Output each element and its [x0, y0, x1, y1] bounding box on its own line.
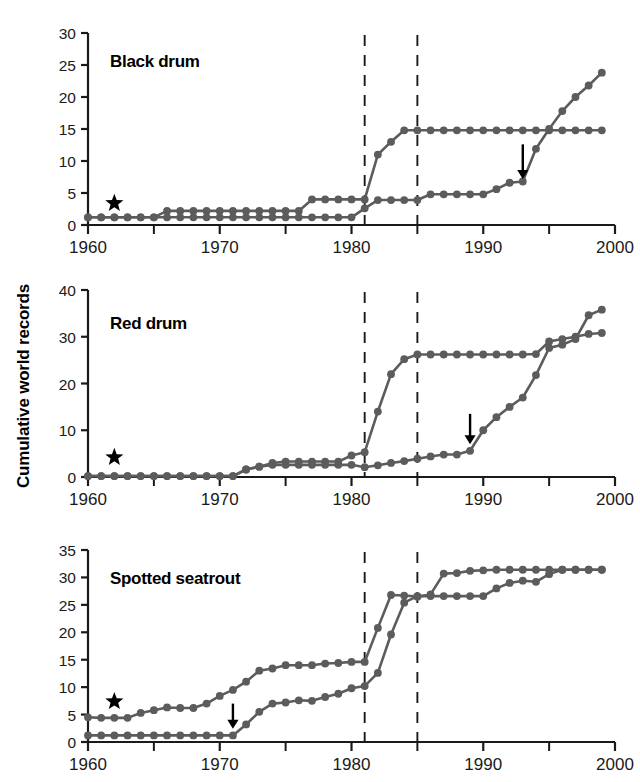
data-point-marker	[269, 665, 277, 673]
y-tick-label: 5	[67, 707, 76, 724]
data-point-marker	[400, 457, 408, 465]
data-point-marker	[348, 452, 356, 460]
y-ticks-group: 010203040	[59, 282, 88, 486]
data-point-marker	[387, 370, 395, 378]
data-point-marker	[493, 126, 501, 134]
data-point-marker	[506, 179, 514, 187]
y-tick-label: 30	[59, 569, 77, 586]
star-marker-icon	[105, 194, 123, 211]
data-point-marker	[427, 453, 435, 461]
series-upper	[84, 566, 606, 722]
data-point-marker	[387, 138, 395, 146]
data-point-marker	[176, 472, 184, 480]
data-point-marker	[308, 461, 316, 469]
data-point-marker	[308, 661, 316, 669]
y-tick-label: 35	[59, 542, 76, 559]
data-point-marker	[124, 472, 132, 480]
data-point-marker	[229, 686, 237, 694]
y-tick-label: 10	[59, 153, 77, 170]
data-point-marker	[598, 126, 606, 134]
data-point-marker	[110, 213, 118, 221]
data-point-marker	[84, 713, 92, 721]
data-point-marker	[321, 461, 329, 469]
data-point-marker	[453, 451, 461, 459]
data-point-marker	[493, 351, 501, 359]
data-point-marker	[440, 190, 448, 198]
data-point-marker	[137, 472, 145, 480]
data-point-marker	[440, 126, 448, 134]
data-point-marker	[163, 213, 171, 221]
data-point-marker	[110, 714, 118, 722]
star-marker-icon	[105, 448, 123, 465]
data-point-marker	[242, 466, 250, 474]
data-point-marker	[440, 570, 448, 578]
data-point-marker	[387, 459, 395, 467]
data-point-marker	[190, 704, 198, 712]
data-point-marker	[400, 592, 408, 600]
chart-svg-1: 01020304019601970198019902000	[0, 262, 640, 517]
data-point-marker	[137, 709, 145, 717]
data-point-marker	[493, 185, 501, 193]
data-point-marker	[466, 567, 474, 575]
data-point-marker	[572, 566, 580, 574]
panel-spotted-seatrout: 0510152025303519601970198019902000 Spott…	[0, 517, 640, 782]
data-point-marker	[400, 599, 408, 607]
data-point-marker	[413, 196, 421, 204]
x-tick-label: 2000	[596, 490, 634, 509]
panel-red-drum: 01020304019601970198019902000 Red drum	[0, 262, 640, 517]
data-point-marker	[163, 472, 171, 480]
data-point-marker	[150, 472, 158, 480]
data-point-marker	[545, 125, 553, 133]
data-point-marker	[493, 566, 501, 574]
data-point-marker	[440, 351, 448, 359]
data-point-marker	[282, 661, 290, 669]
data-point-marker	[598, 306, 606, 314]
data-point-marker	[506, 351, 514, 359]
data-point-marker	[479, 426, 487, 434]
data-point-marker	[242, 678, 250, 686]
data-point-marker	[545, 344, 553, 352]
data-point-marker	[334, 659, 342, 667]
data-point-marker	[295, 213, 303, 221]
data-point-marker	[466, 592, 474, 600]
data-point-marker	[532, 371, 540, 379]
series-line	[88, 570, 602, 718]
data-point-marker	[308, 196, 316, 204]
data-point-marker	[532, 145, 540, 153]
arrow-down-icon	[464, 414, 475, 444]
data-point-marker	[519, 566, 527, 574]
data-point-marker	[361, 204, 369, 212]
data-point-marker	[84, 472, 92, 480]
y-tick-label: 0	[67, 469, 76, 486]
data-point-marker	[453, 126, 461, 134]
series-line	[88, 73, 602, 218]
data-point-marker	[282, 699, 290, 707]
y-tick-label: 5	[67, 185, 76, 202]
data-point-marker	[598, 566, 606, 574]
data-point-marker	[374, 196, 382, 204]
data-point-marker	[137, 213, 145, 221]
data-point-marker	[176, 732, 184, 740]
data-point-marker	[150, 732, 158, 740]
data-point-marker	[479, 566, 487, 574]
data-point-marker	[361, 682, 369, 690]
data-point-marker	[598, 69, 606, 77]
data-point-marker	[190, 472, 198, 480]
data-point-marker	[255, 667, 263, 675]
data-point-marker	[348, 461, 356, 469]
data-point-marker	[348, 196, 356, 204]
y-tick-label: 20	[59, 376, 77, 393]
data-point-marker	[124, 714, 132, 722]
data-point-marker	[321, 660, 329, 668]
x-tick-label: 1970	[201, 238, 239, 257]
data-point-marker	[558, 126, 566, 134]
data-point-marker	[242, 213, 250, 221]
data-point-marker	[493, 413, 501, 421]
data-point-marker	[453, 351, 461, 359]
y-tick-label: 0	[67, 217, 76, 234]
data-point-marker	[479, 592, 487, 600]
x-tick-label: 1980	[333, 238, 371, 257]
y-ticks-group: 05101520253035	[59, 542, 88, 751]
data-point-marker	[203, 700, 211, 708]
x-tick-label: 1990	[464, 755, 502, 774]
